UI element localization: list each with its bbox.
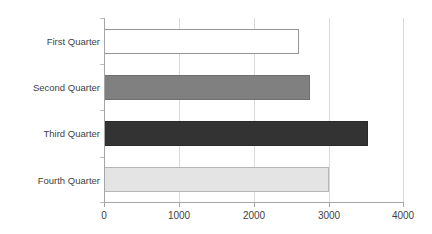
category-label-second-quarter: Second Quarter xyxy=(0,82,100,94)
y-axis-tick xyxy=(100,110,104,111)
bar-chart: First Quarter Second Quarter Third Quart… xyxy=(0,0,432,234)
y-axis-tick xyxy=(100,157,104,158)
category-label-fourth-quarter: Fourth Quarter xyxy=(0,175,100,187)
bar-band-third-quarter xyxy=(104,111,404,157)
category-label-first-quarter: First Quarter xyxy=(0,36,100,48)
x-axis-tick-1000 xyxy=(179,203,180,207)
bar-second-quarter[interactable] xyxy=(104,75,310,100)
x-axis-tick-2000 xyxy=(254,203,255,207)
x-tick-label-3000: 3000 xyxy=(299,210,359,222)
x-axis-tick-3000 xyxy=(329,203,330,207)
bar-band-first-quarter xyxy=(104,18,404,64)
x-axis-tick-4000 xyxy=(403,203,404,207)
x-tick-label-4000: 4000 xyxy=(373,210,432,222)
bar-third-quarter[interactable] xyxy=(104,121,368,146)
x-tick-label-0: 0 xyxy=(74,210,134,222)
category-label-third-quarter: Third Quarter xyxy=(0,128,100,140)
plot-area xyxy=(104,18,404,203)
bar-band-second-quarter xyxy=(104,64,404,110)
bar-fourth-quarter[interactable] xyxy=(104,167,329,192)
x-tick-label-1000: 1000 xyxy=(149,210,209,222)
x-axis-tick-0 xyxy=(104,203,105,207)
bar-band-fourth-quarter xyxy=(104,157,404,203)
x-tick-label-2000: 2000 xyxy=(224,210,284,222)
y-axis-tick xyxy=(100,64,104,65)
y-axis-tick xyxy=(100,18,104,19)
bar-first-quarter[interactable] xyxy=(104,29,299,54)
y-axis-line xyxy=(104,18,105,203)
